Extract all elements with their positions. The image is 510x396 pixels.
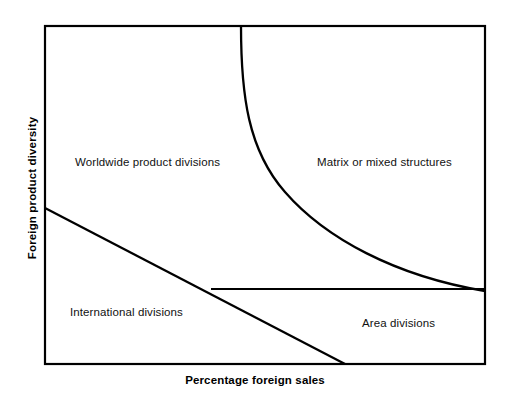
region-label-matrix-or-mixed-structures: Matrix or mixed structures (317, 156, 452, 168)
x-axis-title: Percentage foreign sales (0, 374, 510, 386)
region-label-worldwide-product-divisions: Worldwide product divisions (75, 156, 220, 168)
region-label-international-divisions: International divisions (70, 306, 183, 318)
diagram-canvas (0, 0, 510, 396)
strategy-structure-diagram: Worldwide product divisions Matrix or mi… (0, 0, 510, 396)
region-label-area-divisions: Area divisions (362, 317, 435, 329)
y-axis-title: Foreign product diversity (26, 78, 38, 298)
